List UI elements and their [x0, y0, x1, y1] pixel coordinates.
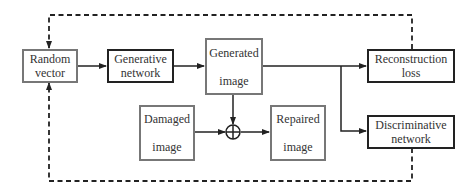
arrow-to-discriminative	[341, 66, 366, 131]
node-reconstruction-loss: Reconstruction loss	[367, 49, 455, 83]
node-label: Random vector	[30, 52, 71, 80]
combine-operator-icon	[226, 125, 240, 139]
diagram-connectors	[0, 0, 475, 193]
node-label: Repaired image	[276, 112, 319, 154]
node-label: Discriminative network	[375, 118, 446, 146]
node-label: Damaged image	[144, 112, 190, 154]
node-label: Generative network	[114, 52, 167, 80]
node-random-vector: Random vector	[22, 49, 78, 83]
node-label: Reconstruction loss	[375, 52, 448, 80]
node-generative-network: Generative network	[107, 49, 174, 83]
node-label: Generated image	[209, 46, 258, 88]
node-discriminative-network: Discriminative network	[367, 115, 455, 149]
node-generated-image: Generated image	[205, 38, 263, 95]
node-repaired-image: Repaired image	[270, 105, 326, 161]
node-damaged-image: Damaged image	[139, 105, 195, 161]
